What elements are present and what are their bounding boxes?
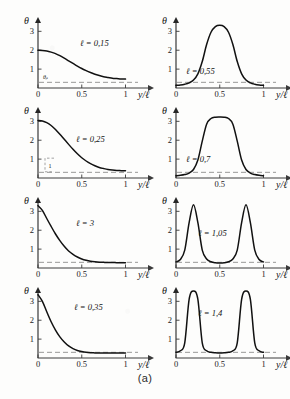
- y-tick-label: 2: [168, 45, 172, 55]
- x-tick-label: 0.5: [76, 359, 87, 369]
- y-tick-label: 1: [168, 334, 172, 344]
- y-axis-label: θ: [24, 195, 29, 206]
- y-tick-label: 1: [168, 64, 172, 74]
- curve-label: ℓ = 0,25: [76, 134, 105, 144]
- y-tick-label: 2: [168, 225, 172, 235]
- x-tick-label: 0.5: [76, 269, 87, 279]
- y-tick-label: 1: [30, 64, 34, 74]
- x-tick-label: 0.5: [214, 179, 225, 189]
- x-tick-label: 1: [261, 359, 265, 369]
- y-tick-label: 1: [30, 154, 34, 164]
- x-tick-label: 1: [123, 269, 127, 279]
- y-axis-arrowhead: [173, 197, 179, 203]
- x-tick-label: 0.5: [214, 89, 225, 99]
- y-tick-label: 3: [30, 206, 34, 216]
- y-axis-label: θ: [24, 285, 29, 296]
- y-tick-label: 3: [30, 26, 34, 36]
- panel-l-1-05: 00.51123θy/ℓℓ = 1,05: [156, 192, 290, 284]
- curve-label: ℓ = 0,55: [186, 66, 215, 76]
- panel-l-0-15: 00.51123θy/ℓθᵦℓ = 0,15: [18, 12, 156, 104]
- y-tick-label: 1: [30, 244, 34, 254]
- y-axis-arrowhead: [173, 17, 179, 23]
- y-axis-label: θ: [162, 195, 167, 206]
- data-curve: [176, 291, 264, 353]
- curve-label: ℓ = 0,35: [74, 302, 103, 312]
- y-axis-arrowhead: [35, 197, 41, 203]
- y-axis-arrowhead: [173, 287, 179, 293]
- y-tick-label: 3: [168, 26, 172, 36]
- x-tick-label: 0: [36, 359, 40, 369]
- x-tick-label: 1: [261, 269, 265, 279]
- panel-l-0-25: 00.51123θy/ℓ1ℓ = 0,25: [18, 102, 156, 194]
- y-tick-label: 2: [30, 315, 34, 325]
- x-tick-label: 0: [174, 179, 178, 189]
- panel-l-3: 00.51123θy/ℓℓ = 3: [18, 192, 156, 284]
- x-axis-label: y/ℓ: [275, 359, 287, 370]
- curve-label: ℓ = 0,7: [186, 154, 211, 164]
- x-tick-label: 0: [36, 179, 40, 189]
- y-axis-label: θ: [162, 15, 167, 26]
- data-curve: [38, 206, 126, 263]
- curve-label: ℓ = 1,05: [198, 228, 227, 238]
- x-axis-label: y/ℓ: [137, 269, 149, 280]
- y-tick-label: 3: [30, 296, 34, 306]
- y-axis-arrowhead: [35, 287, 41, 293]
- y-tick-label: 3: [168, 296, 172, 306]
- panel-l-1-4: 00.51123θy/ℓℓ = 1,4: [156, 282, 290, 374]
- y-tick-label: 2: [30, 135, 34, 145]
- y-axis-arrowhead: [35, 107, 41, 113]
- x-tick-label: 1: [123, 359, 127, 369]
- data-curve: [38, 50, 126, 79]
- x-tick-label: 0.5: [76, 89, 87, 99]
- figure-panel-grid: 00.51123θy/ℓℓ = 1,400.51123θy/ℓℓ = 0,350…: [0, 0, 290, 399]
- x-axis-label: y/ℓ: [275, 89, 287, 100]
- x-tick-label: 0: [174, 89, 178, 99]
- y-tick-label: 1: [168, 244, 172, 254]
- y-tick-label: 1: [168, 154, 172, 164]
- x-axis-label: y/ℓ: [137, 89, 149, 100]
- y-axis-arrowhead: [35, 17, 41, 23]
- curve-label: ℓ = 0,15: [80, 38, 109, 48]
- data-curve: [176, 117, 264, 176]
- x-tick-label: 0: [36, 269, 40, 279]
- x-axis-label: y/ℓ: [137, 359, 149, 370]
- data-curve: [176, 25, 264, 85]
- y-tick-label: 2: [30, 225, 34, 235]
- x-tick-label: 1: [123, 89, 127, 99]
- y-tick-label: 1: [30, 334, 34, 344]
- y-tick-label: 3: [168, 206, 172, 216]
- curve-label: ℓ = 3: [76, 218, 94, 228]
- x-axis-label: y/ℓ: [275, 179, 287, 190]
- panel-l-0-7: 00.51123θy/ℓℓ = 0,7: [156, 102, 290, 194]
- x-tick-label: 1: [261, 89, 265, 99]
- x-tick-label: 1: [261, 179, 265, 189]
- x-axis-label: y/ℓ: [275, 269, 287, 280]
- panel-l-0-55: 00.51123θy/ℓℓ = 0,55: [156, 12, 290, 104]
- bracket-label: 1: [49, 163, 52, 169]
- y-tick-label: 3: [30, 116, 34, 126]
- threshold-label: θᵦ: [43, 74, 48, 80]
- y-tick-label: 2: [168, 315, 172, 325]
- y-axis-arrowhead: [173, 107, 179, 113]
- y-tick-label: 2: [168, 135, 172, 145]
- y-tick-label: 2: [30, 45, 34, 55]
- x-tick-label: 0.5: [76, 179, 87, 189]
- x-tick-label: 0: [174, 359, 178, 369]
- x-tick-label: 0.5: [214, 269, 225, 279]
- panel-l-0-35: 00.51123θy/ℓℓ = 0,35: [18, 282, 156, 374]
- curve-label: ℓ = 1,4: [198, 308, 223, 318]
- x-axis-label: y/ℓ: [137, 179, 149, 190]
- x-tick-label: 0.5: [214, 359, 225, 369]
- y-axis-label: θ: [162, 105, 167, 116]
- y-axis-label: θ: [162, 285, 167, 296]
- figure-caption: (a): [0, 372, 290, 384]
- x-tick-label: 0: [174, 269, 178, 279]
- y-axis-label: θ: [24, 15, 29, 26]
- x-tick-label: 1: [123, 179, 127, 189]
- x-tick-label: 0: [36, 89, 40, 99]
- y-tick-label: 3: [168, 116, 172, 126]
- y-axis-label: θ: [24, 105, 29, 116]
